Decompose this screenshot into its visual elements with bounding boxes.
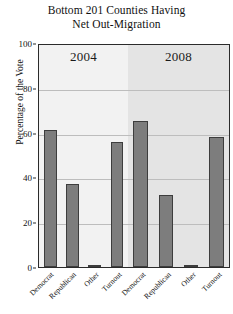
y-tick-label: 60 xyxy=(23,129,32,139)
chart-title-line-1: Bottom 201 Counties Having xyxy=(0,3,233,17)
bar xyxy=(66,184,79,267)
bar xyxy=(133,121,148,267)
bar xyxy=(184,265,199,268)
y-axis-tick-labels: 020406080100 xyxy=(0,44,36,268)
chart-title: Bottom 201 Counties Having Net Out-Migra… xyxy=(0,3,233,31)
y-tick-mark xyxy=(33,88,36,89)
bar xyxy=(44,130,57,267)
y-tick-mark xyxy=(33,268,36,269)
x-tick-label: Other xyxy=(180,270,199,289)
y-tick-label: 20 xyxy=(23,218,32,228)
chart-container: Bottom 201 Counties Having Net Out-Migra… xyxy=(0,0,233,314)
y-tick-label: 100 xyxy=(19,39,33,49)
y-tick-mark xyxy=(33,223,36,224)
x-tick-label: Other xyxy=(82,270,101,289)
y-tick-mark xyxy=(33,133,36,134)
bar xyxy=(111,142,124,267)
x-axis-tick-labels: DemocratRepublicanOtherTurnoutDemocratRe… xyxy=(38,268,230,314)
x-tick-label: Turnout xyxy=(200,270,223,293)
bar xyxy=(209,137,224,267)
bar xyxy=(88,265,101,268)
y-tick-label: 40 xyxy=(23,173,32,183)
plot-area: 2004 2008 xyxy=(38,44,230,268)
bar xyxy=(159,195,174,267)
y-tick-label: 0 xyxy=(28,263,33,273)
chart-title-line-2: Net Out-Migration xyxy=(0,17,233,31)
bars-layer xyxy=(39,45,229,267)
y-tick-label: 80 xyxy=(23,84,32,94)
y-tick-mark xyxy=(33,44,36,45)
y-tick-mark xyxy=(33,178,36,179)
